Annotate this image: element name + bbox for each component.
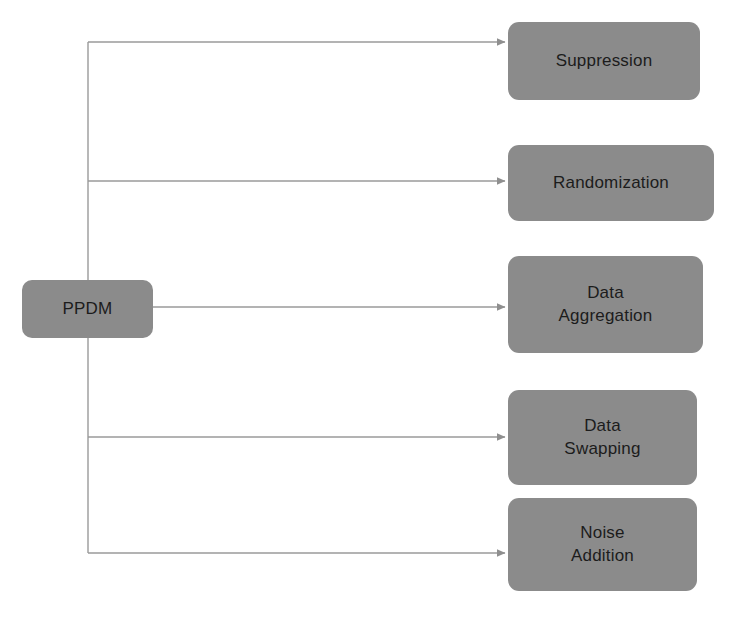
node-noise-addition[interactable]: Noise Addition bbox=[508, 498, 697, 591]
node-randomization[interactable]: Randomization bbox=[508, 145, 714, 221]
node-data-swapping[interactable]: Data Swapping bbox=[508, 390, 697, 485]
node-ppdm[interactable]: PPDM bbox=[22, 280, 153, 338]
diagram-canvas: PPDM Suppression Randomization Data Aggr… bbox=[0, 0, 729, 625]
node-suppression[interactable]: Suppression bbox=[508, 22, 700, 100]
node-data-aggregation[interactable]: Data Aggregation bbox=[508, 256, 703, 353]
